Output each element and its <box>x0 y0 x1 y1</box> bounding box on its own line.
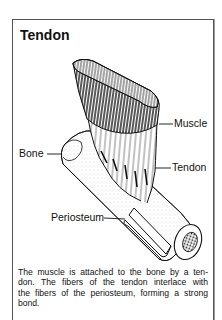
caption-line: don. The fibers of the tendon interlace … <box>18 277 208 287</box>
figure-caption: The muscle is attached to the bone by a … <box>18 267 208 309</box>
muscle-shape <box>73 59 159 133</box>
caption-line: bond. <box>18 298 208 308</box>
label-periosteum: Periosteum <box>51 211 104 223</box>
caption-line: the fibers of the periosteum, forming a … <box>18 288 208 298</box>
caption-line: The muscle is attached to the bone by a … <box>18 267 208 277</box>
figure-box: Tendon <box>12 19 214 320</box>
tendon-illustration <box>13 20 213 270</box>
label-bone: Bone <box>19 147 44 159</box>
label-tendon: Tendon <box>172 161 206 173</box>
label-muscle: Muscle <box>174 117 207 129</box>
